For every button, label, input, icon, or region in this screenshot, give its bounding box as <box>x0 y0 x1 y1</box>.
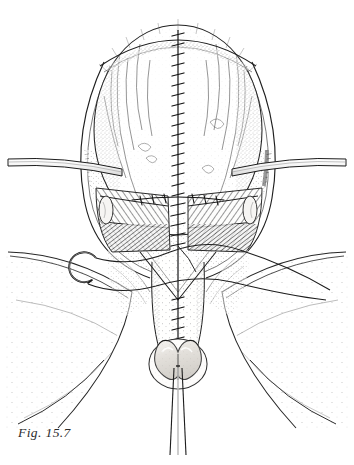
figure-page: Fig. 15.7 <box>0 0 354 465</box>
figure-caption: Fig. 15.7 <box>18 425 71 441</box>
right-oval-nodule <box>243 196 257 224</box>
surgical-illustration <box>0 0 354 465</box>
left-oval-nodule <box>99 196 113 224</box>
